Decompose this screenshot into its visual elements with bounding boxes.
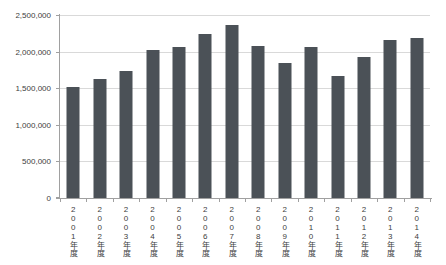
y-tick-label: 2,500,000 [15, 11, 51, 20]
x-tick-label: 2001年度 [69, 205, 78, 257]
gridline [60, 52, 430, 53]
x-tick-label: 2011年度 [333, 205, 342, 257]
x-axis-labels: 2001年度2002年度2003年度2004年度2005年度2006年度2007… [60, 205, 430, 263]
fiscal-year-bar-chart: 0500,0001,000,0001,500,0002,000,0002,500… [0, 0, 446, 265]
x-axis-tick [245, 198, 246, 202]
y-tick-label: 500,000 [22, 157, 51, 166]
x-axis-tick [139, 198, 140, 202]
y-axis-tick [56, 52, 60, 53]
bar [93, 79, 106, 198]
bar [410, 38, 423, 198]
x-tick-label: 2009年度 [280, 205, 289, 257]
x-tick-label: 2002年度 [95, 205, 104, 257]
x-axis-tick [298, 198, 299, 202]
y-tick-label: 1,500,000 [15, 84, 51, 93]
x-tick-label: 2005年度 [174, 205, 183, 257]
x-tick-label: 2012年度 [359, 205, 368, 257]
y-axis-tick [56, 88, 60, 89]
x-axis-tick [60, 198, 61, 202]
y-axis-tick [56, 161, 60, 162]
bar [305, 47, 318, 198]
x-axis-tick [377, 198, 378, 202]
x-axis-tick [192, 198, 193, 202]
gridline [60, 125, 430, 126]
x-tick-label: 2007年度 [227, 205, 236, 257]
x-tick-label: 2006年度 [201, 205, 210, 257]
bar [252, 46, 265, 198]
x-tick-label: 2003年度 [122, 205, 131, 257]
bar [384, 40, 397, 198]
x-axis-tick [430, 198, 431, 202]
x-tick-label: 2013年度 [386, 205, 395, 257]
y-tick-label: 2,000,000 [15, 47, 51, 56]
gridline [60, 88, 430, 89]
bar [67, 87, 80, 198]
gridline [60, 15, 430, 16]
x-axis-tick [86, 198, 87, 202]
x-axis-tick [324, 198, 325, 202]
bar [199, 34, 212, 198]
x-tick-label: 2004年度 [148, 205, 157, 257]
bar [357, 57, 370, 198]
x-axis-tick [219, 198, 220, 202]
y-axis-tick [56, 15, 60, 16]
y-axis-labels: 0500,0001,000,0001,500,0002,000,0002,500… [0, 15, 55, 198]
x-tick-label: 2008年度 [254, 205, 263, 257]
x-tick-label: 2010年度 [307, 205, 316, 257]
x-axis-tick [271, 198, 272, 202]
bar [146, 50, 159, 198]
x-axis-tick [166, 198, 167, 202]
plot-area [60, 15, 430, 198]
x-axis-tick [351, 198, 352, 202]
gridline [60, 161, 430, 162]
bar [278, 63, 291, 198]
y-axis-tick [56, 125, 60, 126]
bar [225, 25, 238, 198]
x-axis-tick [404, 198, 405, 202]
x-tick-label: 2014年度 [412, 205, 421, 257]
bar [172, 47, 185, 198]
bar [120, 71, 133, 198]
y-tick-label: 0 [47, 194, 51, 203]
y-tick-label: 1,000,000 [15, 120, 51, 129]
x-axis-tick [113, 198, 114, 202]
bar [331, 76, 344, 198]
